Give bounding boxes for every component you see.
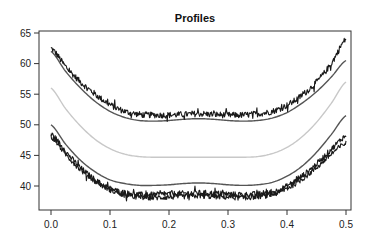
chart-title: Profiles — [175, 12, 215, 24]
y-axis: 404550556065 — [20, 28, 39, 192]
x-tick-label: 0.1 — [103, 219, 117, 230]
y-tick-label: 50 — [20, 119, 32, 130]
x-tick-label: 0.5 — [339, 219, 353, 230]
x-tick-label: 0.3 — [221, 219, 235, 230]
y-tick-label: 60 — [20, 58, 32, 69]
profiles-chart: Profiles 404550556065 0.00.10.20.30.40.5 — [0, 0, 374, 243]
y-tick-label: 45 — [20, 150, 32, 161]
y-tick-label: 40 — [20, 181, 32, 192]
y-tick-label: 65 — [20, 28, 32, 39]
x-tick-label: 0.0 — [44, 219, 58, 230]
x-axis: 0.00.10.20.30.40.5 — [44, 210, 353, 230]
x-tick-label: 0.4 — [280, 219, 294, 230]
x-tick-label: 0.2 — [162, 219, 176, 230]
y-tick-label: 55 — [20, 89, 32, 100]
series-line-upper-noisy — [51, 38, 346, 121]
series-layer — [51, 38, 346, 201]
